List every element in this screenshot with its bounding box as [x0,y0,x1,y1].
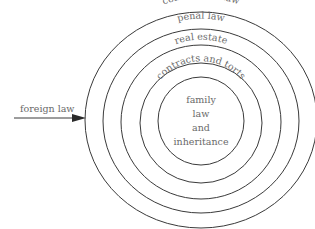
core-line-3: and [192,122,210,133]
arrowhead-icon [72,114,86,122]
label-penal-law: penal law [176,10,226,24]
core-line-2: law [193,108,210,119]
label-commercial-law: commercial law [161,0,241,6]
foreign-law-arrow [14,114,86,122]
label-real-estate: real estate [173,31,230,47]
label-foreign-law: foreign law [20,103,75,114]
core-line-4: inheritance [173,136,228,147]
core-line-1: family [186,94,216,105]
ring-family-law [158,77,244,165]
law-rings-diagram: commercial law penal law real estate con… [0,0,315,229]
